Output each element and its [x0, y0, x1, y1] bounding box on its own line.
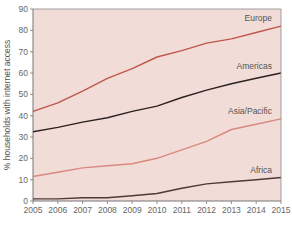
y-tick-label: 70 [19, 47, 29, 57]
x-tick-label: 2010 [148, 205, 167, 215]
x-tick-label: 2011 [173, 205, 192, 215]
x-tick-label: 2012 [197, 205, 216, 215]
series-label-africa: Africa [250, 165, 272, 175]
y-tick-label: 40 [19, 111, 29, 121]
x-tick-label: 2007 [73, 205, 92, 215]
x-tick-label: 2015 [272, 205, 291, 215]
y-tick-label: 80 [19, 25, 29, 35]
y-tick-label: 60 [19, 68, 29, 78]
y-tick-label: 50 [19, 89, 29, 99]
x-axis: 2005200620072008200920102011201220132014… [24, 201, 291, 215]
x-tick-label: 2009 [123, 205, 142, 215]
x-tick-label: 2006 [48, 205, 67, 215]
series-label-asia-pacific: Asia/Pacific [228, 106, 273, 116]
y-tick-label: 20 [19, 153, 29, 163]
y-tick-label: 90 [19, 4, 29, 14]
y-axis-title: % households with internet access [2, 40, 12, 170]
x-tick-label: 2014 [247, 205, 266, 215]
x-tick-label: 2008 [98, 205, 117, 215]
series-label-americas: Americas [237, 61, 272, 71]
x-tick-label: 2005 [24, 205, 43, 215]
series-label-europe: Europe [245, 13, 273, 23]
x-tick-label: 2013 [222, 205, 241, 215]
y-tick-label: 30 [19, 132, 29, 142]
y-axis: 0102030405060708090 [19, 4, 33, 206]
y-tick-label: 10 [19, 175, 29, 185]
line-chart: 0102030405060708090 20052006200720082009… [0, 0, 292, 225]
